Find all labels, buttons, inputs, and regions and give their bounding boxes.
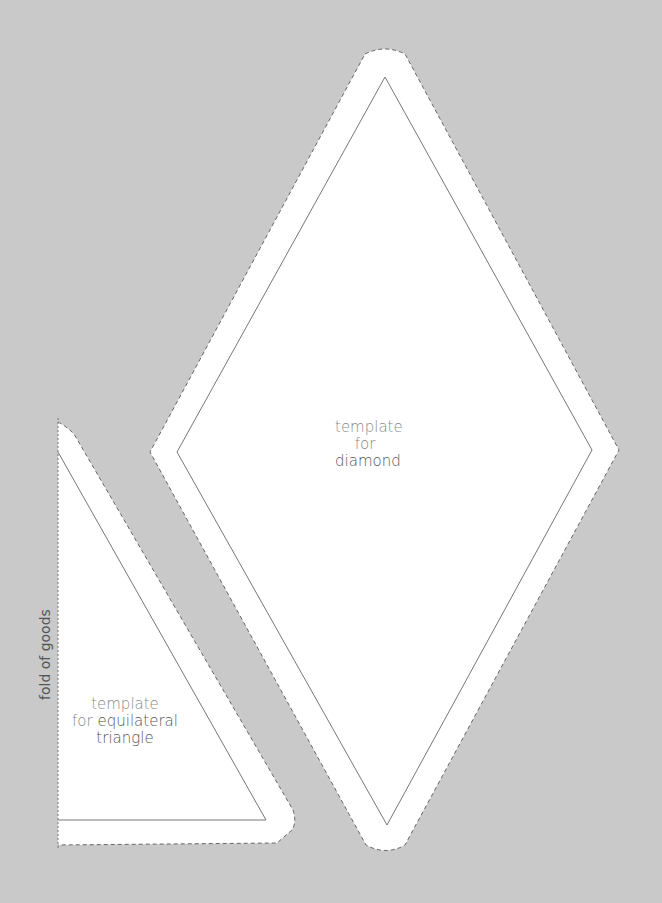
triangle-label-for: for — [72, 712, 93, 730]
diamond-label-line3: diamond — [335, 453, 395, 470]
triangle-label-line3: triangle — [70, 730, 180, 747]
triangle-label-equilateral: equilateral — [97, 712, 177, 730]
triangle-label: template for equilateral triangle — [70, 696, 180, 747]
triangle-label-line1: template — [70, 696, 180, 713]
template-diagram — [0, 0, 662, 903]
diamond-label-line2: for — [335, 436, 395, 453]
diamond-label-line1: template — [335, 419, 395, 436]
diamond-label: template for diamond — [335, 419, 395, 470]
fold-of-goods-label: fold of goods — [37, 609, 53, 700]
triangle-label-line2: for equilateral — [70, 713, 180, 730]
